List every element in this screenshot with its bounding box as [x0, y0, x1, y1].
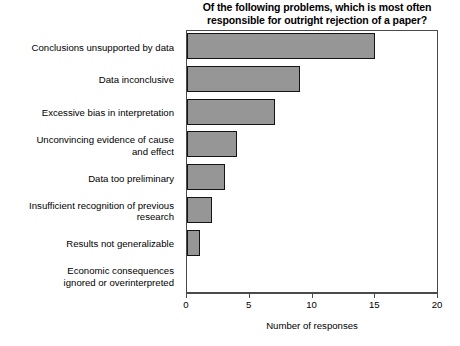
bar-slot [187, 31, 438, 64]
bar[interactable] [187, 99, 275, 125]
category-label-row: Data too preliminary [0, 162, 180, 195]
x-axis-tick [312, 293, 313, 298]
x-axis-tick-label: 5 [246, 299, 251, 310]
bar[interactable] [187, 197, 212, 223]
category-label: Conclusions unsupported by data [32, 42, 180, 53]
category-label-row: Unconvincing evidence of cause and effec… [0, 129, 180, 162]
bar-slot [187, 129, 438, 162]
category-label-row: Results not generalizable [0, 228, 180, 261]
bar[interactable] [187, 66, 300, 92]
category-label: Data too preliminary [88, 173, 180, 184]
bar-slot [187, 228, 438, 261]
category-label-row: Data inconclusive [0, 64, 180, 97]
category-label: Economic consequences ignored or overint… [64, 265, 180, 288]
x-axis-tick [374, 293, 375, 298]
x-axis-tick-label: 15 [369, 299, 380, 310]
bar-slot [187, 64, 438, 97]
category-label-row: Excessive bias in interpretation [0, 97, 180, 130]
category-label-row: Conclusions unsupported by data [0, 31, 180, 64]
x-axis-label: Number of responses [186, 320, 438, 331]
category-label: Excessive bias in interpretation [42, 107, 180, 118]
x-axis-tick-label: 20 [432, 299, 443, 310]
bar[interactable] [187, 230, 200, 256]
chart-title-line-1: Of the following problems, which is most… [186, 1, 448, 14]
bar[interactable] [187, 33, 375, 59]
category-label: Data inconclusive [99, 74, 180, 85]
x-axis-tick [186, 293, 187, 298]
x-axis-tick-label: 0 [183, 299, 188, 310]
bars-layer [187, 31, 438, 293]
bar[interactable] [187, 131, 237, 157]
chart-title-line-2: responsible for outright rejection of a … [186, 14, 448, 27]
x-axis-tick [437, 293, 438, 298]
x-axis-tick-label: 10 [306, 299, 317, 310]
category-label: Unconvincing evidence of cause and effec… [36, 134, 180, 157]
category-label: Results not generalizable [66, 238, 180, 249]
category-label-row: Economic consequences ignored or overint… [0, 260, 180, 293]
x-axis-tick [249, 293, 250, 298]
bar[interactable] [187, 164, 225, 190]
category-label: Insufficient recognition of previous res… [29, 200, 180, 223]
bar-chart: Of the following problems, which is most… [0, 0, 460, 346]
bar-slot [187, 97, 438, 130]
bar-slot [187, 195, 438, 228]
chart-title: Of the following problems, which is most… [186, 1, 448, 26]
category-label-row: Insufficient recognition of previous res… [0, 195, 180, 228]
category-axis-labels: Conclusions unsupported by dataData inco… [0, 31, 180, 293]
bar-slot [187, 162, 438, 195]
bar-slot [187, 260, 438, 293]
